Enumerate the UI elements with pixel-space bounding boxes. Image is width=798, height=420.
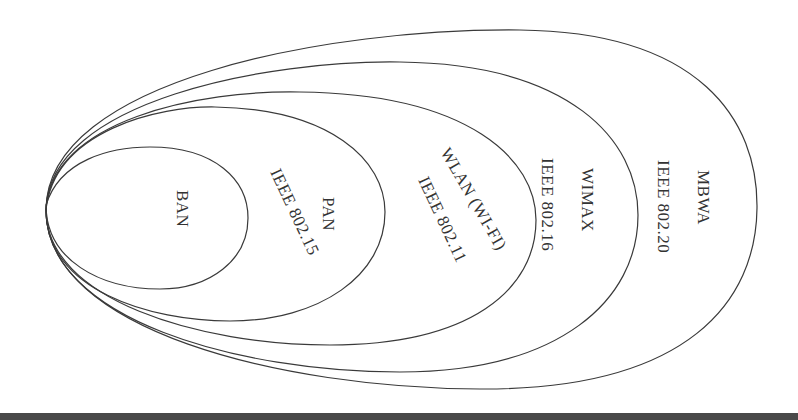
label-wimax-standard: IEEE 802.16 bbox=[538, 158, 557, 251]
ellipse-ban bbox=[46, 147, 248, 289]
label-pan: PAN bbox=[319, 197, 338, 231]
bottom-border-band bbox=[0, 413, 798, 420]
label-wimax: WIMAX bbox=[578, 168, 597, 232]
wireless-network-diagram: BAN PAN IEEE 802.15 WLAN (WI-FI) IEEE 80… bbox=[0, 0, 798, 420]
label-mbwa-standard: IEEE 802.20 bbox=[654, 160, 673, 253]
label-mbwa: MBWA bbox=[694, 170, 713, 225]
ellipse-mbwa bbox=[46, 30, 757, 389]
label-pan-standard: IEEE 802.15 bbox=[266, 166, 323, 259]
label-ban: BAN bbox=[173, 190, 192, 227]
